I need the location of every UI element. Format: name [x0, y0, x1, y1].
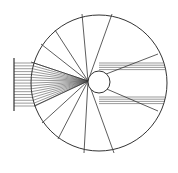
optics-diagram — [0, 0, 178, 173]
inner-circle — [88, 71, 110, 93]
